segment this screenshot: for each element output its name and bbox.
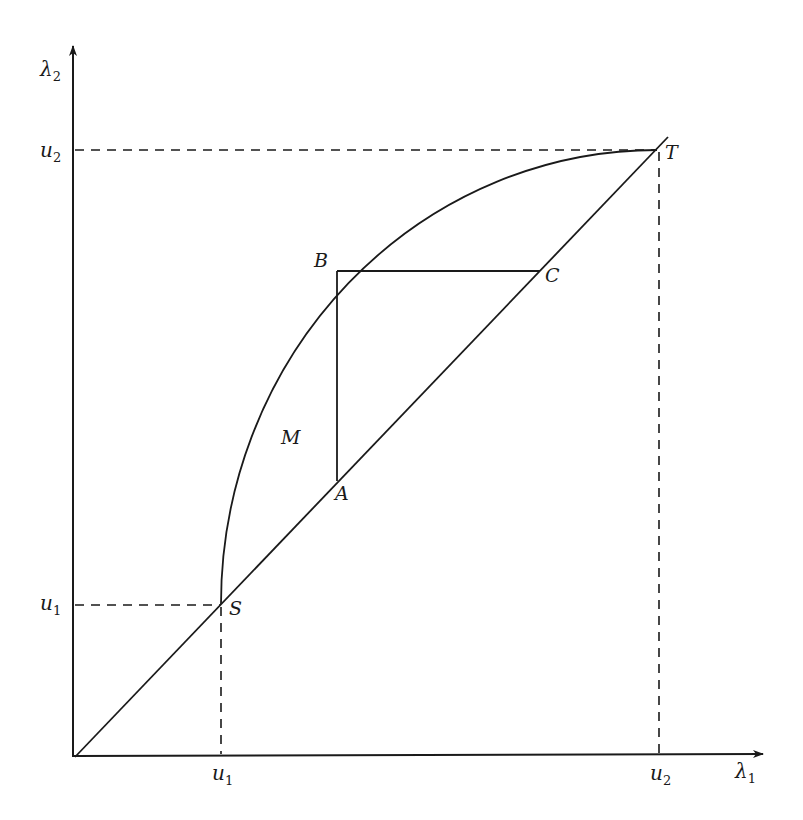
region-label-M: M bbox=[280, 426, 301, 448]
x-tick-u2: u2 bbox=[650, 761, 671, 788]
y-tick-u2: u2 bbox=[40, 138, 61, 165]
point-label-B: B bbox=[313, 249, 328, 271]
y-axis-label: λ2 bbox=[39, 57, 61, 84]
y-tick-u1: u1 bbox=[40, 591, 61, 618]
diagonal-line bbox=[75, 137, 668, 757]
diagram-canvas: λ2 λ1 u2 u1 u1 u2 T B C A S M bbox=[0, 0, 803, 820]
x-tick-u1: u1 bbox=[212, 761, 233, 788]
point-label-A: A bbox=[333, 482, 349, 504]
point-label-S: S bbox=[229, 597, 242, 619]
x-axis-label: λ1 bbox=[734, 759, 756, 786]
point-label-T: T bbox=[665, 141, 679, 163]
x-axis bbox=[73, 754, 763, 756]
point-label-C: C bbox=[545, 264, 560, 286]
